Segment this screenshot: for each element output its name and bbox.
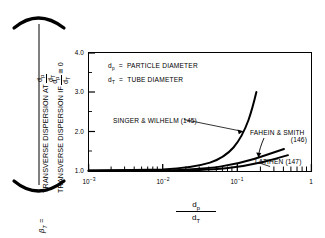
x-tick-label-1e-1: 10−1	[223, 176, 251, 185]
symbol-definitions-block: dp = PARTICLE DIAMETER dT = TUBE DIAMETE…	[108, 60, 198, 89]
x-tick-label-1: 1	[297, 176, 325, 185]
curve-label-fahein-smith: FAHEIN & SMITH (146)	[250, 129, 307, 143]
y-axis-label-group: TRANSVERSE DISPERSION ATdpdT TRANSVERSE …	[0, 0, 86, 238]
x-axis-title-denominator: dT	[176, 212, 216, 223]
denominator-tail: ≅ 0	[56, 62, 65, 74]
denominator-fraction: dpdT	[51, 75, 72, 84]
y-tick-label-3: 3.0	[64, 88, 84, 95]
y-tick-label-2: 2.0	[64, 128, 84, 135]
curve-singer-wilhelm	[89, 92, 257, 171]
curve-label-latihen: LATIHEN (147)	[255, 158, 302, 165]
y-axis-minor-ticks	[88, 73, 92, 152]
x-axis-title-numerator: dp	[176, 200, 216, 212]
fahein-line2: (146)	[250, 136, 307, 143]
x-tick-label-1e-2: 10−2	[149, 176, 177, 185]
y-tick-label-4: 4.0	[64, 49, 84, 56]
x-tick-label-1e-3: 10−3	[75, 176, 103, 185]
numerator-text: TRANSVERSE DISPERSION AT	[41, 84, 50, 193]
x-axis-title: dp dT	[176, 200, 216, 223]
definition-row-dp: dp = PARTICLE DIAMETER	[108, 60, 198, 74]
denominator-text: TRANSVERSE DISPERSION IF	[56, 86, 65, 193]
fahein-line1: FAHEIN & SMITH	[250, 129, 305, 136]
curve-label-singer-wilhelm: SINGER & WILHELM (145)	[113, 117, 197, 124]
beta-t-symbol-label: βT =	[37, 218, 48, 233]
figure-container: TRANSVERSE DISPERSION ATdpdT TRANSVERSE …	[0, 0, 325, 238]
y-tick-label-1: 1.0	[64, 167, 84, 174]
definition-row-dt: dT = TUBE DIAMETER	[108, 74, 198, 88]
